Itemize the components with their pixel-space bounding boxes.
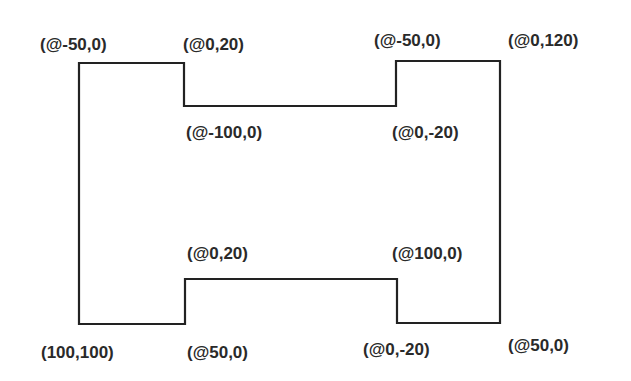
- label-top-left-corner: (@-50,0): [40, 36, 107, 53]
- outline-shape: [0, 0, 631, 381]
- label-top-left-step: (@0,20): [183, 36, 244, 53]
- label-top-inner-right: (@0,-20): [392, 124, 459, 141]
- diagram-canvas: (@-50,0) (@0,20) (@-100,0) (@-50,0) (@0,…: [0, 0, 631, 381]
- label-start-point: (100,100): [41, 344, 114, 361]
- label-top-inner-left: (@-100,0): [186, 124, 262, 141]
- label-top-right-corner: (@0,120): [508, 32, 578, 49]
- label-bottom-right-step: (@0,-20): [363, 341, 430, 358]
- label-bottom-left-step: (@50,0): [187, 344, 248, 361]
- label-bottom-inner-right: (@100,0): [392, 245, 462, 262]
- polyline-outline: [79, 61, 500, 324]
- label-bottom-right-corner: (@50,0): [508, 337, 569, 354]
- label-top-right-step: (@-50,0): [374, 32, 441, 49]
- label-bottom-inner-left: (@0,20): [187, 245, 248, 262]
